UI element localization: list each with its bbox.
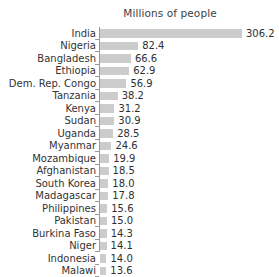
bar-row: Burkina Faso14.3 <box>0 227 279 240</box>
bar <box>100 29 242 38</box>
bar <box>100 267 106 276</box>
bar-value-label: 66.6 <box>135 53 157 65</box>
category-label: Burkina Faso <box>0 228 96 240</box>
category-label: South Korea <box>0 178 96 190</box>
bar-value-label: 24.6 <box>115 140 137 152</box>
category-label: Pakistan <box>0 215 96 227</box>
bar <box>100 117 114 126</box>
bar-value-label: 19.9 <box>113 153 135 165</box>
bar-row: South Korea18.0 <box>0 177 279 190</box>
bar <box>100 79 126 88</box>
bar-row: Uganda28.5 <box>0 127 279 140</box>
category-label: Niger <box>0 240 96 252</box>
bar-value-label: 82.4 <box>142 40 164 52</box>
bar <box>100 154 109 163</box>
bar-value-label: 306.2 <box>246 28 275 40</box>
bar-value-label: 28.5 <box>117 128 139 140</box>
bar <box>100 142 111 151</box>
bar-value-label: 18.0 <box>112 178 134 190</box>
bar <box>100 254 106 263</box>
category-label: Myanmar <box>0 140 96 152</box>
category-label: Philippines <box>0 203 96 215</box>
bar-row: Indonesia14.0 <box>0 252 279 265</box>
bar <box>100 104 114 113</box>
bar-row: Nigeria82.4 <box>0 40 279 53</box>
bar-value-label: 31.2 <box>118 103 140 115</box>
bar <box>100 42 138 51</box>
category-label: Madagascar <box>0 190 96 202</box>
bar-row: Niger14.1 <box>0 240 279 253</box>
bar-row: Malawi13.6 <box>0 265 279 277</box>
bar <box>100 129 113 138</box>
bar-row: India306.2 <box>0 27 279 40</box>
bar-value-label: 15.6 <box>111 203 133 215</box>
bar-value-label: 18.5 <box>113 165 135 177</box>
bar <box>100 54 131 63</box>
bar-value-label: 14.0 <box>110 253 132 265</box>
bar-value-label: 13.6 <box>110 265 132 277</box>
bar-row: Myanmar24.6 <box>0 140 279 153</box>
bar <box>100 67 129 76</box>
chart-title: Millions of people <box>99 7 241 19</box>
category-label: India <box>0 28 96 40</box>
bar <box>100 242 107 251</box>
category-label: Dem. Rep. Congo <box>0 78 96 90</box>
bar-row: Kenya31.2 <box>0 102 279 115</box>
bar-value-label: 15.0 <box>111 215 133 227</box>
bar <box>100 192 108 201</box>
category-label: Mozambique <box>0 153 96 165</box>
category-label: Sudan <box>0 115 96 127</box>
bar-value-label: 14.1 <box>111 240 133 252</box>
bar <box>100 204 107 213</box>
bar <box>100 229 107 238</box>
category-label: Indonesia <box>0 253 96 265</box>
bar-value-label: 14.3 <box>111 228 133 240</box>
bar <box>100 179 108 188</box>
category-label: Afghanistan <box>0 165 96 177</box>
bar-row: Mozambique19.9 <box>0 152 279 165</box>
category-label: Tanzania <box>0 90 96 102</box>
bar-row: Afghanistan18.5 <box>0 165 279 178</box>
bar-value-label: 62.9 <box>133 65 155 77</box>
bar <box>100 92 118 101</box>
category-label: Bangladesh <box>0 53 96 65</box>
category-label: Uganda <box>0 128 96 140</box>
bar-row: Dem. Rep. Congo56.9 <box>0 77 279 90</box>
bar-value-label: 30.9 <box>118 115 140 127</box>
bar-row: Madagascar17.8 <box>0 190 279 203</box>
category-label: Malawi <box>0 265 96 277</box>
bar-row: Tanzania38.2 <box>0 90 279 103</box>
bar-row: Philippines15.6 <box>0 202 279 215</box>
bar-value-label: 56.9 <box>130 78 152 90</box>
bar-value-label: 38.2 <box>122 90 144 102</box>
bar-row: Bangladesh66.6 <box>0 52 279 65</box>
plot-area: India306.2Nigeria82.4Bangladesh66.6Ethio… <box>0 27 279 253</box>
bar-value-label: 17.8 <box>112 190 134 202</box>
category-label: Nigeria <box>0 40 96 52</box>
bar-row: Ethiopia62.9 <box>0 65 279 78</box>
bar <box>100 167 109 176</box>
bar-row: Pakistan15.0 <box>0 215 279 228</box>
category-label: Ethiopia <box>0 65 96 77</box>
bar-row: Sudan30.9 <box>0 115 279 128</box>
category-label: Kenya <box>0 103 96 115</box>
bar <box>100 217 107 226</box>
